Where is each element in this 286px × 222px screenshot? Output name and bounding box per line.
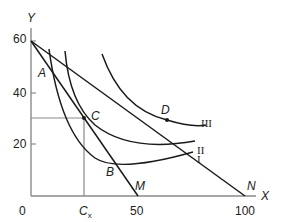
indifference-curve-iii xyxy=(102,54,206,126)
curve-iii-label: III xyxy=(201,118,212,129)
point-c-dot xyxy=(82,116,86,120)
point-d-label: D xyxy=(161,104,170,116)
y-axis-label: Y xyxy=(27,12,35,24)
cx-label: Cx xyxy=(79,205,92,217)
y-tick-label-40: 40 xyxy=(13,87,26,99)
point-n-label: N xyxy=(247,180,256,192)
point-c-label: C xyxy=(91,110,100,122)
cx-label-main: C xyxy=(79,204,88,218)
x-tick-label-100: 100 xyxy=(235,205,255,217)
y-tick-label-20: 20 xyxy=(13,138,26,150)
point-m-label: M xyxy=(135,180,145,192)
point-d-dot xyxy=(165,118,169,122)
y-tick-label-60: 60 xyxy=(13,33,26,45)
curve-ii-label: II xyxy=(197,145,204,156)
origin-label: 0 xyxy=(19,205,26,217)
point-b-label: B xyxy=(106,166,114,178)
cx-label-subscript: x xyxy=(88,211,92,220)
x-tick-label-50: 50 xyxy=(130,205,143,217)
point-a-label: A xyxy=(38,67,46,79)
x-axis-label: X xyxy=(261,190,269,202)
